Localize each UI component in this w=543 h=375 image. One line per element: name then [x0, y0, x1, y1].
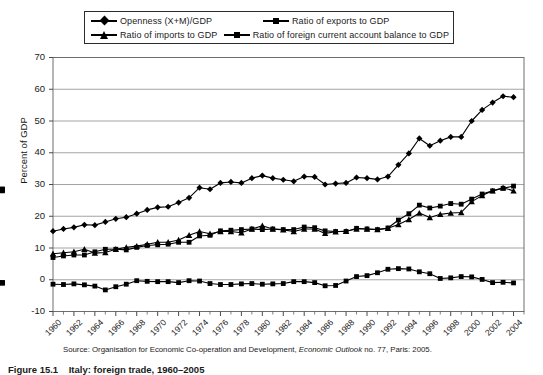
source-prefix: Source: Organisation for Economic Co-ope… [63, 345, 297, 354]
y-tick-label: 50 [19, 116, 45, 126]
y-tick-label: 40 [19, 147, 45, 157]
y-tick-label: 30 [19, 179, 45, 189]
chart-series-1 [0, 184, 516, 260]
figure-caption-text: Italy: foreign trade, 1960–2005 [69, 364, 205, 375]
source-suffix: no. 77, Paris: 2005. [364, 345, 432, 354]
chart-series-2 [50, 184, 517, 256]
y-tick-label: -10 [19, 306, 45, 316]
y-tick-label: 60 [19, 84, 45, 94]
chart-series-3 [0, 266, 516, 292]
source-note: Source: Organisation for Economic Co-ope… [63, 345, 432, 355]
y-tick-label: 10 [19, 243, 45, 253]
figure-caption: Figure 15.1 Italy: foreign trade, 1960–2… [8, 364, 204, 375]
source-publication: Economic Outlook [299, 345, 362, 354]
figure-caption-number: Figure 15.1 [8, 364, 58, 375]
y-tick-label: 20 [19, 211, 45, 221]
y-tick-label: 70 [19, 52, 45, 62]
y-tick-label: 0 [19, 274, 45, 284]
